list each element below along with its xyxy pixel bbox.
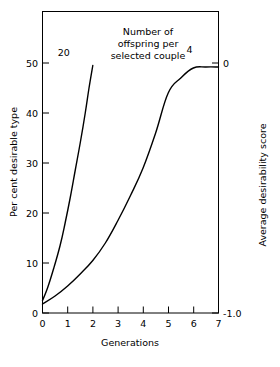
annotation-line-2: offspring per — [118, 38, 179, 49]
xtick-label-1: 1 — [65, 318, 71, 329]
y2-axis-title: Average desirability score — [257, 123, 268, 246]
xtick-label-0: 0 — [39, 318, 45, 329]
ytick-label-0: 0 — [32, 308, 38, 319]
chart-figure: 0 10 20 30 40 50 Per cent desirable type… — [0, 0, 280, 367]
xtick-label-4: 4 — [140, 318, 146, 329]
xtick-label-2: 2 — [90, 318, 96, 329]
y2tick-label-minus-one: -1.0 — [223, 308, 242, 319]
xtick-label-3: 3 — [115, 318, 121, 329]
ytick-label-20: 20 — [26, 208, 38, 219]
xtick-label-5: 5 — [165, 318, 171, 329]
series-label-4: 4 — [187, 44, 193, 55]
series-label-20: 20 — [58, 47, 70, 58]
x-axis-title: Generations — [101, 337, 159, 348]
y2tick-label-0: 0 — [223, 58, 229, 69]
y-axis-title: Per cent desirable type — [8, 107, 19, 217]
ytick-label-30: 30 — [26, 158, 38, 169]
ytick-label-50: 50 — [26, 58, 38, 69]
annotation-line-1: Number of — [123, 26, 174, 37]
ytick-label-10: 10 — [26, 258, 38, 269]
xtick-label-7: 7 — [215, 318, 221, 329]
chart-svg: 0 10 20 30 40 50 Per cent desirable type… — [0, 0, 280, 367]
xtick-label-6: 6 — [191, 318, 197, 329]
ytick-label-40: 40 — [26, 108, 38, 119]
annotation-line-3: selected couple — [111, 50, 186, 61]
